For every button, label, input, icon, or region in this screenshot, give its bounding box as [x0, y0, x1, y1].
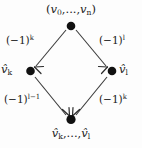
edge-tl-base: (−1)	[6, 34, 30, 46]
edge-bl-base: (−1)	[4, 93, 28, 105]
arrowhead-right	[99, 67, 108, 74]
edge-tr-exponent: l	[123, 34, 125, 42]
edge-br-base: (−1)	[99, 93, 123, 105]
commutative-diagram: (v0,...,vn) v̂k v̂l v̂k,...,v̂l (−1)k (−…	[0, 0, 142, 148]
edge-label-top-left: (−1)k	[6, 35, 34, 46]
bottom-var-v2-hat: v̂	[81, 128, 88, 140]
edge-label-bottom-right: (−1)k	[99, 94, 127, 105]
edge-tr-base: (−1)	[99, 34, 123, 46]
top-paren-close: )	[92, 2, 97, 16]
node-label-right: v̂l	[119, 64, 128, 76]
right-var-v-hat: v̂	[119, 64, 126, 76]
node-label-bottom: v̂k,...,v̂l	[52, 128, 90, 140]
edge-label-top-right: (−1)l	[99, 35, 125, 46]
arrowhead-left	[35, 67, 44, 74]
edge-bl-exponent: l−1	[28, 93, 40, 101]
edge-label-bottom-left: (−1)l−1	[4, 94, 40, 105]
vertex-top	[67, 22, 76, 31]
left-var-v: v	[1, 62, 8, 76]
arrowhead-group	[35, 67, 108, 117]
vertex-bottom	[66, 115, 75, 124]
top-ellipsis: ,...,	[62, 2, 80, 16]
bottom-var-v1-hat: v̂	[52, 128, 59, 140]
edge-tl-exponent: k	[30, 34, 34, 42]
edge-group	[35, 30, 107, 115]
edge-br-exponent: k	[123, 93, 127, 101]
vertex-right	[108, 67, 117, 76]
bottom-ellipsis: ,...,	[63, 126, 81, 140]
left-var-v-hat: v̂	[1, 64, 8, 76]
vertex-left	[26, 67, 35, 76]
bottom-var-v1: v	[52, 126, 59, 140]
left-sub-k: k	[8, 68, 13, 77]
bottom-var-v2: v	[81, 126, 88, 140]
right-var-v: v	[119, 62, 126, 76]
bottom-sub-l: l	[88, 132, 90, 141]
node-label-top: (v0,...,vn)	[46, 4, 96, 16]
node-label-left: v̂k	[1, 64, 12, 76]
edge-top-left-line	[36, 30, 66, 66]
